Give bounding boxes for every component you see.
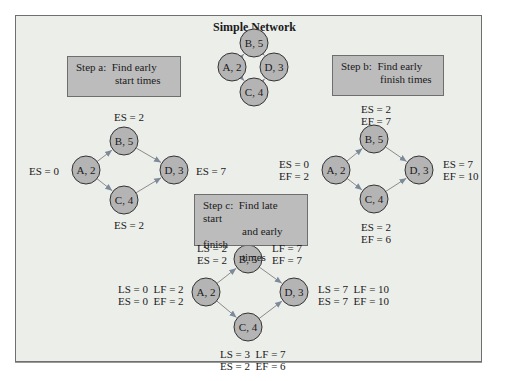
a-es-A: ES = 0	[29, 165, 59, 177]
arrow	[386, 147, 407, 162]
arrow	[259, 267, 281, 283]
node-label: D, 3	[285, 286, 304, 298]
c-D1: LS = 7 LF = 10	[318, 283, 389, 295]
node-label: C, 4	[245, 86, 264, 98]
node-label: C, 4	[115, 194, 134, 206]
b-A2: EF = 2	[279, 170, 309, 182]
step-a-box: Step a: Find early start times	[67, 56, 181, 97]
node-label: B, 5	[365, 133, 384, 145]
step-b-label: Step b:	[341, 60, 372, 72]
node-label: B, 5	[245, 37, 264, 49]
step-b-line2: finish times	[341, 73, 432, 85]
c-D2: ES = 7 EF = 10	[318, 295, 389, 307]
b-B1: ES = 2	[361, 103, 391, 115]
arrow	[386, 178, 407, 191]
step-a-line2: start times	[76, 74, 161, 86]
node-label: D, 3	[165, 164, 184, 176]
arrow	[136, 178, 161, 193]
node-label: A, 2	[223, 61, 242, 73]
b-B2: EF = 7	[361, 115, 391, 127]
c-A2: ES = 0 EF = 2	[118, 295, 184, 307]
step-b-box: Step b: Find early finish times	[332, 55, 444, 96]
arrow	[259, 301, 282, 318]
c-B-right2: EF = 7	[272, 254, 302, 266]
arrow	[217, 268, 236, 283]
b-C1: ES = 2	[361, 221, 391, 233]
c-B-left2: ES = 2	[197, 254, 227, 266]
node-label: A, 2	[197, 286, 216, 298]
arrow	[217, 301, 237, 317]
b-D1: ES = 7	[443, 158, 473, 170]
node-label: A, 2	[77, 164, 96, 176]
arrow	[347, 178, 362, 189]
a-es-D: ES = 7	[196, 165, 226, 177]
arrow	[347, 148, 363, 161]
a-es-C: ES = 2	[114, 219, 144, 231]
arrow	[241, 54, 243, 57]
c-C2: ES = 2 EF = 6	[220, 360, 286, 372]
node-label: C, 4	[239, 321, 258, 333]
a-es-B: ES = 2	[114, 111, 144, 123]
c-C1: LS = 3 LF = 7	[220, 348, 286, 360]
arrow	[241, 78, 244, 81]
step-c-label: Step c:	[203, 199, 233, 211]
node-label: B, 5	[115, 135, 134, 147]
step-b-line1: Find early	[377, 60, 422, 72]
arrow	[136, 148, 161, 162]
arrow	[97, 179, 112, 191]
step-c-box: Step c: Find late start and early finish…	[194, 194, 308, 246]
node-label: D, 3	[410, 164, 429, 176]
c-B-right1: LF = 7	[272, 242, 302, 254]
step-a-line1: Find early	[112, 61, 157, 73]
step-a-label: Step a:	[76, 61, 106, 73]
node-label: A, 2	[327, 164, 346, 176]
arrow	[97, 150, 112, 161]
c-B-left1: LS = 2	[197, 242, 227, 254]
node-label: C, 4	[365, 193, 384, 205]
node-label: D, 3	[265, 61, 284, 73]
b-C2: EF = 6	[361, 233, 391, 245]
c-A1: LS = 0 LF = 2	[118, 283, 184, 295]
b-A1: ES = 0	[279, 158, 309, 170]
b-D2: EF = 10	[443, 170, 479, 182]
